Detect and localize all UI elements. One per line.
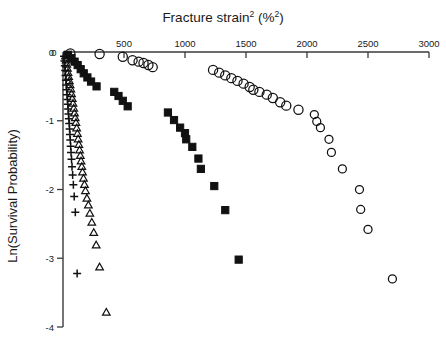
data-point-circle <box>338 165 346 173</box>
y-tick-label: 0 <box>49 47 54 58</box>
data-point-square <box>164 109 171 116</box>
data-point-triangle <box>90 229 98 236</box>
data-point-plus <box>71 208 79 216</box>
data-point-triangle <box>85 201 93 208</box>
data-point-circle <box>355 186 363 194</box>
data-point-plus <box>69 171 77 179</box>
series-triangle <box>62 52 110 315</box>
data-point-triangle <box>83 194 91 201</box>
y-tick-label: -2 <box>46 184 54 195</box>
y-axis-label: Ln(Survival Probability) <box>5 129 20 263</box>
data-point-square <box>235 256 242 263</box>
data-point-circle <box>95 49 104 58</box>
data-point-square <box>195 155 202 162</box>
data-point-square <box>211 182 218 189</box>
data-point-square <box>124 103 131 110</box>
x-tick-label: 1000 <box>174 38 195 49</box>
data-point-plus <box>68 155 76 163</box>
y-tick-label: -3 <box>46 253 54 264</box>
data-point-triangle <box>92 241 100 248</box>
x-tick-label: 2000 <box>296 38 317 49</box>
data-point-plus <box>67 148 75 156</box>
data-point-circle <box>128 56 137 65</box>
chart-title-group: Fracture strain2 (%2) <box>162 9 283 25</box>
data-point-triangle <box>103 309 111 316</box>
x-tick-label: 3000 <box>418 38 439 49</box>
data-point-triangle <box>88 218 96 225</box>
x-tick-label: 2500 <box>357 38 378 49</box>
data-point-plus <box>73 269 81 277</box>
scatter-plot: Fracture strain2 (%2) 050010001500200025… <box>0 0 446 342</box>
data-point-circle <box>327 148 335 156</box>
data-point-square <box>170 116 177 123</box>
data-point-circle <box>325 135 333 143</box>
data-point-circle <box>388 275 396 283</box>
y-tick-label: -1 <box>46 115 54 126</box>
x-axis-title: Fracture strain2 (%2) <box>162 9 283 25</box>
data-point-square <box>222 207 229 214</box>
x-tick-label: 500 <box>116 38 132 49</box>
data-point-triangle <box>86 210 94 217</box>
chart-container: Fracture strain2 (%2) 050010001500200025… <box>0 0 446 342</box>
data-point-square <box>189 143 196 150</box>
y-tick-label: -4 <box>46 322 54 333</box>
y-tick-group: 0-1-2-3-4 <box>46 47 63 333</box>
data-point-circle <box>364 225 372 233</box>
x-tick-label: 1500 <box>235 38 256 49</box>
series-square <box>64 51 242 263</box>
data-point-plus <box>70 192 78 200</box>
y-axis-label-group: Ln(Survival Probability) <box>5 129 20 263</box>
data-point-square <box>93 83 100 90</box>
data-series-group <box>60 49 396 315</box>
data-point-plus <box>68 163 76 171</box>
series-circle <box>66 49 397 283</box>
data-point-circle <box>316 124 324 132</box>
data-point-circle <box>294 105 303 114</box>
data-point-plus <box>69 181 77 189</box>
data-point-square <box>197 165 204 172</box>
data-point-circle <box>357 205 365 213</box>
data-point-square <box>183 136 190 143</box>
data-point-circle <box>118 52 127 61</box>
data-point-triangle <box>96 263 104 270</box>
x-tick-group: 050010001500200025003000 <box>51 38 439 58</box>
